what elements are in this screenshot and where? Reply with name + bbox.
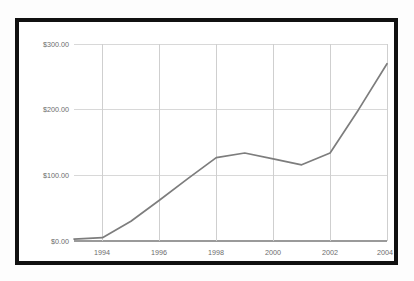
x-tick-label-1996: 1996 bbox=[151, 248, 167, 257]
y-tick-label-100: $100.00 bbox=[43, 171, 69, 180]
y-tick-label-200: $200.00 bbox=[43, 105, 69, 114]
x-tick-label-2004: 2004 bbox=[377, 248, 393, 257]
x-tick-label-1994: 1994 bbox=[94, 248, 110, 257]
screenshot-root: $300.00 $200.00 $100.00 $0.00 1994 1996 … bbox=[0, 0, 414, 281]
y-tick-label-0: $0.00 bbox=[51, 237, 69, 246]
chart-frame-border: $300.00 $200.00 $100.00 $0.00 1994 1996 … bbox=[15, 18, 398, 265]
y-tick-label-300: $300.00 bbox=[43, 40, 69, 49]
x-tick-label-2000: 2000 bbox=[265, 248, 281, 257]
x-tick-label-2002: 2002 bbox=[322, 248, 338, 257]
x-tick-label-1998: 1998 bbox=[208, 248, 224, 257]
line-chart: $300.00 $200.00 $100.00 $0.00 1994 1996 … bbox=[19, 22, 394, 261]
chart-canvas: $300.00 $200.00 $100.00 $0.00 1994 1996 … bbox=[19, 22, 394, 261]
